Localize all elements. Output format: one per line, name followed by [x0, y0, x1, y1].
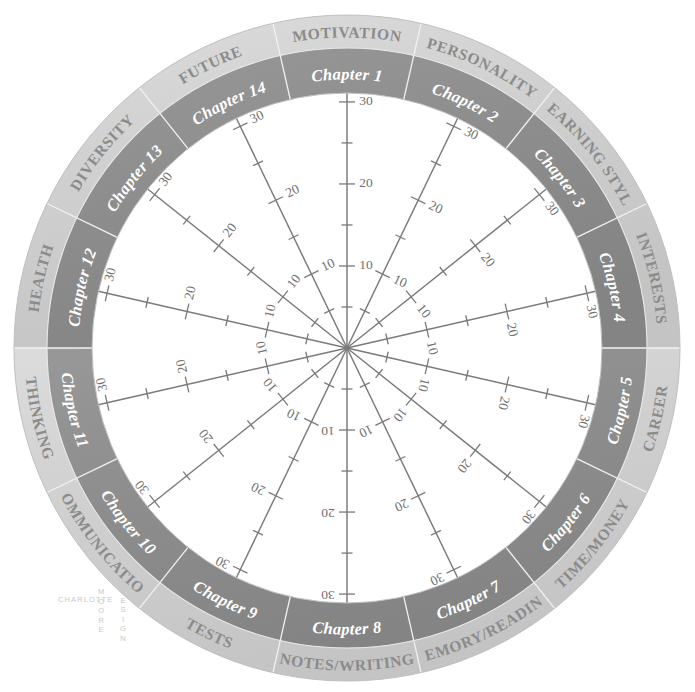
axis-tick-label: 20 [181, 284, 199, 301]
axis-tick-label: 10 [261, 302, 279, 319]
sector-chapter-label: Chapter 8 [312, 617, 383, 638]
axis-tick-label: 20 [321, 506, 335, 521]
axis-tick-label: 30 [359, 93, 373, 108]
axis-tick-label: 10 [284, 405, 303, 424]
axis-tick-label: 30 [101, 266, 119, 283]
axis-tick-label: 20 [392, 496, 411, 515]
axis-tick-label: 10 [357, 422, 376, 441]
axis-tick-label: 10 [321, 424, 335, 439]
assessment-wheel: 1020301020301020301020301020301020301020… [0, 0, 695, 692]
axis-tick-label: 20 [495, 395, 513, 412]
sector-chapter-label: Chapter 1 [310, 64, 383, 85]
axis-tick-label: 20 [249, 479, 268, 498]
axis-tick-label: 20 [478, 250, 498, 270]
axis-tick-label: 20 [504, 321, 522, 338]
axis-tick-label: 30 [575, 413, 593, 430]
axis-tick-label: 20 [427, 197, 446, 216]
axis-tick-label: 10 [424, 340, 442, 357]
axis-tick-label: 10 [359, 257, 373, 272]
wheel-canvas: 1020301020301020301020301020301020301020… [0, 0, 695, 692]
axis-tick-label: 10 [260, 375, 280, 395]
axis-tick-label: 10 [391, 271, 410, 290]
axis-tick-label: 20 [196, 426, 216, 446]
axis-tick-label: 10 [319, 255, 338, 274]
axis-tick-label: 10 [414, 301, 434, 321]
axis-tick-label: 30 [321, 588, 335, 603]
axis-tick-label: 10 [390, 405, 410, 425]
axis-tick-label: 10 [284, 271, 304, 291]
axis-tick-label: 20 [454, 456, 474, 476]
spokes-group [98, 93, 595, 603]
axis-tick-label: 20 [359, 175, 373, 190]
axis-tick-label: 10 [415, 377, 433, 394]
axis-tick-label: 20 [283, 181, 302, 200]
axis-tick-label: 20 [219, 220, 239, 240]
axis-tick-label: 10 [253, 340, 271, 357]
axis-tick-label: 20 [173, 358, 191, 375]
